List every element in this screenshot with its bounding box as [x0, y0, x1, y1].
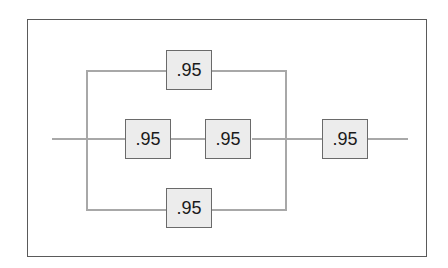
block-middle-series-2: .95: [205, 119, 251, 159]
block-output-series: .95: [322, 119, 368, 159]
top-branch-line-right: [212, 70, 287, 72]
output-line: [368, 138, 408, 140]
block-middle-series-1: .95: [125, 119, 171, 159]
right-branch-vertical: [285, 70, 287, 211]
bottom-branch-line-left: [86, 209, 166, 211]
bottom-branch-line-right: [212, 209, 287, 211]
input-line: [52, 138, 126, 140]
middle-connector-2: [252, 138, 322, 140]
middle-connector-1: [171, 138, 206, 140]
top-branch-line-left: [86, 70, 166, 72]
block-top-parallel: .95: [166, 50, 212, 90]
block-bottom-parallel: .95: [166, 188, 212, 228]
left-branch-vertical: [86, 70, 88, 211]
